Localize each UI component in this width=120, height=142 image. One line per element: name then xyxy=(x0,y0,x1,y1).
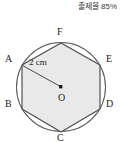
vertex-label-O: O xyxy=(58,93,65,103)
vertex-label-B: B xyxy=(5,99,12,109)
figure-page: 출제율 85% 2 cm O A B C D E F xyxy=(0,0,120,142)
geometry-figure: 2 cm O A B C D E F xyxy=(0,14,120,142)
vertex-label-D: D xyxy=(106,99,113,109)
vertex-label-A: A xyxy=(5,54,12,64)
radius-length-label: 2 cm xyxy=(29,58,47,67)
center-point-dot xyxy=(59,85,62,88)
vertex-label-F: F xyxy=(57,27,63,37)
appearance-rate-label: 출제율 85% xyxy=(78,1,117,12)
vertex-label-E: E xyxy=(106,54,112,64)
vertex-label-C: C xyxy=(57,133,64,142)
